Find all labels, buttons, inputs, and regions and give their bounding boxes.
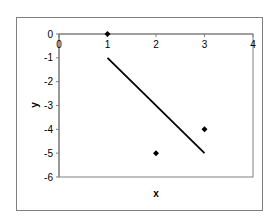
x-tick-label: 2 <box>153 39 159 50</box>
x-tick-label: 4 <box>250 39 256 50</box>
y-tick-label: 0 <box>47 29 53 40</box>
x-tick-label: 3 <box>202 39 208 50</box>
x-axis-label: x <box>153 188 159 199</box>
chart-container: 012340-1-2-3-4-5-6 x y <box>0 0 275 222</box>
y-tick-label: -3 <box>44 100 53 111</box>
scatter-chart: 012340-1-2-3-4-5-6 x y <box>0 0 275 222</box>
y-tick-label: -4 <box>44 124 53 135</box>
chart-frame <box>17 18 263 211</box>
y-tick-label: -6 <box>44 172 53 183</box>
y-tick-label: -2 <box>44 76 53 87</box>
y-axis-label: y <box>29 102 40 108</box>
x-tick-label: 0 <box>56 39 62 50</box>
x-tick-label: 1 <box>105 39 111 50</box>
y-tick-label: -5 <box>44 148 53 159</box>
y-tick-label: -1 <box>44 52 53 63</box>
